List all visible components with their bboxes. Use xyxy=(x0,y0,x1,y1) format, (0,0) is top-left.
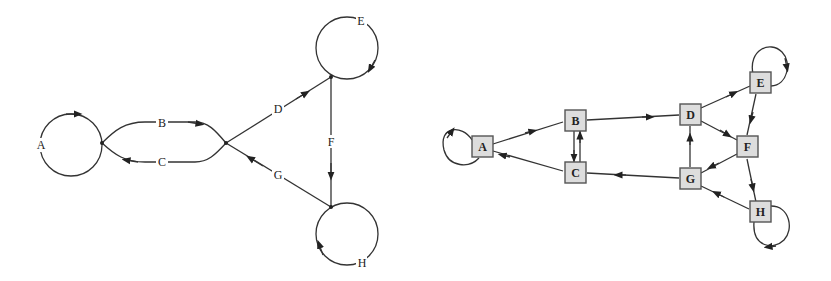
edge-b-d xyxy=(587,115,679,120)
arrow-d xyxy=(296,93,306,99)
edge-a-b xyxy=(493,122,563,144)
edge-label-b: B xyxy=(158,116,166,130)
arrow-e xyxy=(370,60,375,69)
junction-h xyxy=(329,205,333,209)
edge-e-f xyxy=(747,94,756,135)
node-label-d: D xyxy=(686,108,695,122)
node-label-h: H xyxy=(756,205,766,219)
node-g[interactable]: G xyxy=(680,168,701,189)
node-label-a: A xyxy=(478,140,487,154)
node-b[interactable]: B xyxy=(565,110,586,131)
node-label-g: G xyxy=(686,172,695,186)
junction-a xyxy=(100,141,104,145)
node-label-b: B xyxy=(571,114,579,128)
node-d[interactable]: D xyxy=(680,104,701,125)
edge-d-e xyxy=(701,86,750,108)
edge-label-c: C xyxy=(158,155,166,169)
node-f[interactable]: F xyxy=(737,136,758,157)
loop-edge-a xyxy=(40,114,102,176)
edge-label-e: E xyxy=(357,14,364,28)
edge-label-g: G xyxy=(274,168,283,182)
edge-label-a: A xyxy=(37,138,46,152)
diagram-canvas: A B C D E F G H xyxy=(0,0,831,281)
arrow-g xyxy=(250,158,263,166)
edge-label-f: F xyxy=(328,135,335,149)
arrow-f-g xyxy=(711,163,719,167)
edge-label-d: D xyxy=(274,102,283,116)
loop-edge-h xyxy=(316,203,378,265)
node-e[interactable]: E xyxy=(750,72,771,93)
edge-h-g xyxy=(701,186,749,209)
edge-label-h: H xyxy=(358,256,367,270)
edge-g-c xyxy=(587,173,679,178)
node-a[interactable]: A xyxy=(472,136,493,157)
edge-d-f xyxy=(701,121,737,140)
arrow-d-e xyxy=(726,93,734,97)
loop-edge-e xyxy=(316,17,378,79)
arrow-d-f xyxy=(720,130,728,135)
node-label-c: C xyxy=(571,166,580,180)
node-c[interactable]: C xyxy=(565,162,586,183)
edge-c-a xyxy=(493,151,563,171)
junction-center xyxy=(224,141,228,145)
junction-e xyxy=(329,75,333,79)
node-h[interactable]: H xyxy=(750,201,771,222)
arrow-h-g xyxy=(716,193,724,197)
right-diagram: A B C D E F G H xyxy=(443,47,789,247)
left-diagram: A B C D E F G H xyxy=(36,13,378,270)
node-label-e: E xyxy=(756,76,764,90)
node-label-f: F xyxy=(744,140,751,154)
